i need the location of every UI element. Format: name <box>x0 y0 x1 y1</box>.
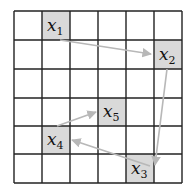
arrow-x1-to-x2 <box>60 40 151 54</box>
grid-lines <box>14 11 182 183</box>
grid-path-diagram: x1x2x3x4x5 <box>0 0 191 193</box>
arrow-x2-to-x3 <box>155 69 167 165</box>
arrow-x4-to-x5 <box>57 112 96 126</box>
